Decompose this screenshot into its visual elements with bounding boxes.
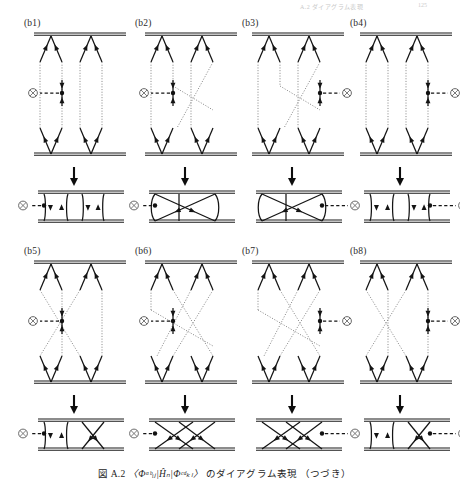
down-arrow-b2 xyxy=(133,166,245,188)
fermion-arrow-icon xyxy=(369,44,376,51)
fermion-arrow-icon xyxy=(270,272,277,279)
interaction-dot-icon xyxy=(320,203,324,207)
fermion-arrow-icon xyxy=(154,272,161,279)
fermion-arrow-icon xyxy=(171,83,176,89)
panel-bottom-b2 xyxy=(133,186,245,230)
caption-text: のダイアグラム表現 xyxy=(206,469,298,479)
diagram-b1-bottom xyxy=(22,186,134,230)
fermion-arrow-icon xyxy=(385,204,390,210)
circled-cross-icon[interactable] xyxy=(140,317,149,326)
fermion-arrow-icon xyxy=(272,136,279,143)
fermion-arrow-icon xyxy=(83,272,90,279)
fermion-arrow-icon xyxy=(409,272,416,279)
fermion-arrow-icon xyxy=(165,136,172,143)
diagram-b3-bottom xyxy=(240,186,352,230)
diagram-b1-top xyxy=(22,27,134,167)
interaction-dot-icon xyxy=(42,431,46,435)
fermion-arrow-icon xyxy=(312,136,319,143)
fermion-arrow-icon xyxy=(152,364,159,371)
diagram-panel-b2: (b2) xyxy=(133,18,245,228)
interaction-stalk-dot xyxy=(318,91,322,95)
fermion-arrow-icon xyxy=(296,207,303,214)
dotted-cross-a xyxy=(258,310,320,346)
down-arrow-b6 xyxy=(133,394,245,416)
interaction-dot-icon xyxy=(153,203,157,207)
fermion-arrow-icon xyxy=(41,136,48,143)
fermion-arrow-icon xyxy=(367,364,374,371)
fermion-arrow-icon xyxy=(48,433,53,439)
fermion-arrow-icon xyxy=(60,83,65,89)
fermion-arrow-icon xyxy=(163,44,170,51)
page-number: 125 xyxy=(418,2,427,8)
diagram-b7-bottom xyxy=(240,414,352,458)
panel-arrow-b5 xyxy=(22,394,134,416)
fermion-arrow-icon xyxy=(422,204,427,210)
panel-bottom-b6 xyxy=(133,414,245,458)
fermion-arrow-icon xyxy=(94,136,101,143)
interaction-stalk-dot xyxy=(171,91,175,95)
fermion-arrow-icon xyxy=(60,325,65,331)
fermion-arrow-icon xyxy=(60,97,65,103)
panel-top-b4 xyxy=(348,27,460,167)
fermion-arrow-icon xyxy=(318,325,323,331)
lens-right-right xyxy=(103,194,104,221)
down-arrow-icon xyxy=(181,178,189,186)
fermion-arrow-icon xyxy=(81,136,88,143)
fermion-arrow-icon xyxy=(205,364,212,371)
fermion-arrow-icon xyxy=(318,83,323,89)
down-arrow-b1 xyxy=(22,166,134,188)
fermion-arrow-icon xyxy=(94,364,101,371)
circled-cross-icon[interactable] xyxy=(19,201,28,210)
circled-cross-icon[interactable] xyxy=(451,317,460,326)
result-arc-right xyxy=(215,194,219,221)
panel-bottom-b3 xyxy=(240,186,352,230)
fermion-arrow-icon xyxy=(192,136,199,143)
fermion-arrow-icon xyxy=(299,136,306,143)
panel-bottom-b5 xyxy=(22,414,134,458)
circled-cross-icon[interactable] xyxy=(19,429,28,438)
down-arrow-icon xyxy=(288,178,296,186)
lens-left-right xyxy=(67,194,68,221)
fermion-arrow-icon xyxy=(312,364,319,371)
caption-suffix: （つづき） xyxy=(300,469,351,479)
diagram-b3-top xyxy=(240,27,352,167)
circled-cross-icon[interactable] xyxy=(29,317,38,326)
fermion-arrow-icon xyxy=(192,364,199,371)
interaction-stalk-dot xyxy=(60,91,64,95)
fermion-arrow-icon xyxy=(54,136,61,143)
panel-top-b2 xyxy=(133,27,245,167)
diagram-b7-top xyxy=(240,255,352,395)
down-arrow-b4 xyxy=(348,166,460,188)
fermion-arrow-icon xyxy=(59,204,64,210)
fermion-arrow-icon xyxy=(59,432,64,438)
panel-arrow-b4 xyxy=(348,166,460,188)
panel-top-b8 xyxy=(348,255,460,395)
dotted-cross-a xyxy=(151,310,213,346)
panel-bottom-b1 xyxy=(22,186,134,230)
down-arrow-b5 xyxy=(22,394,134,416)
diagram-panel-b5: (b5) xyxy=(22,246,134,456)
panel-arrow-b1 xyxy=(22,166,134,188)
fermion-arrow-icon xyxy=(60,311,65,317)
diagram-b8-top xyxy=(348,255,460,395)
fermion-arrow-icon xyxy=(43,44,50,51)
result-arc-left xyxy=(258,194,262,221)
fermion-arrow-icon xyxy=(374,433,379,439)
interaction-dot-icon xyxy=(428,203,432,207)
diagram-panel-b6: (b6) xyxy=(133,246,245,456)
fermion-arrow-icon xyxy=(92,272,99,279)
circled-cross-icon[interactable] xyxy=(451,89,460,98)
circled-cross-icon[interactable] xyxy=(140,89,149,98)
fermion-arrow-icon xyxy=(380,136,387,143)
diagram-panel-b1: (b1) xyxy=(22,18,134,228)
circled-cross-icon[interactable] xyxy=(29,89,38,98)
fermion-arrow-icon xyxy=(318,311,323,317)
interaction-stalk-dot xyxy=(171,319,175,323)
fermion-arrow-icon xyxy=(420,364,427,371)
diagram-b2-bottom xyxy=(133,186,245,230)
fermion-arrow-icon xyxy=(174,207,181,214)
fermion-arrow-icon xyxy=(171,97,176,103)
interaction-dot-icon xyxy=(428,431,432,435)
interaction-dot-icon xyxy=(42,203,46,207)
panel-top-b7 xyxy=(240,255,352,395)
